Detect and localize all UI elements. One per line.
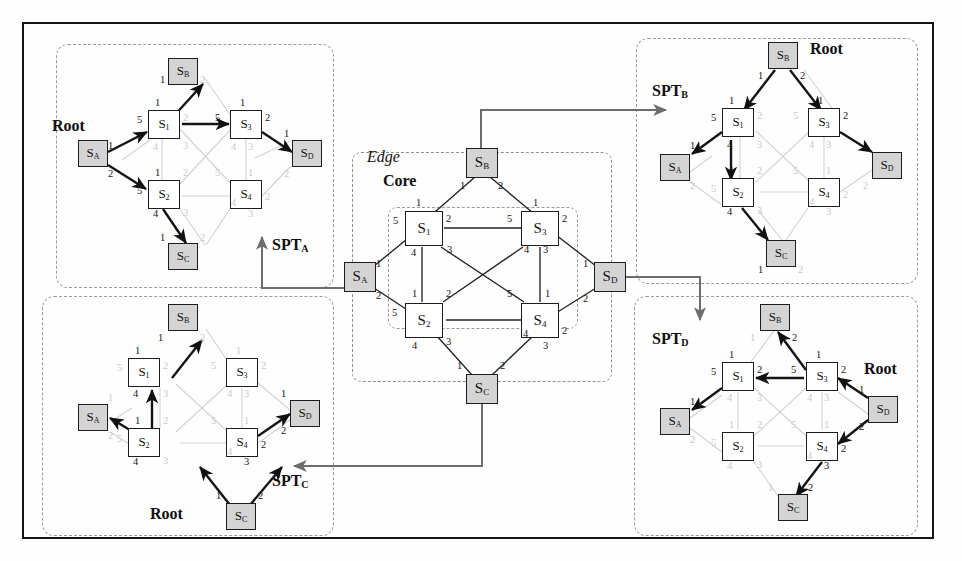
core-node-sd[interactable]: SD [594,262,626,292]
sptb-node-s2[interactable]: S2 [722,178,754,207]
sptb-node-sb[interactable]: SB [768,42,798,69]
sptc-node-s3[interactable]: S3 [226,358,258,387]
spta-node-sc[interactable]: SC [168,243,198,270]
port-s3-1: 1 [533,197,538,208]
sptd-port-s3-3: 3 [824,392,829,403]
sptc-port-sd-1: 1 [281,388,286,399]
sptc-port-s3-2: 2 [261,360,266,371]
sptc-port-s2-5: 5 [117,433,122,444]
sptb-port-s3-5: 5 [793,110,798,121]
sptc-port-s4-2: 2 [261,439,266,450]
sptb-port-s1-4: 4 [727,139,732,150]
sptc-port-sc-1: 1 [216,490,221,501]
port-sc-2: 2 [500,360,505,371]
port-s4-5: 5 [507,288,512,299]
sptc-node-s2[interactable]: S2 [128,428,160,457]
spta-port-s2-2: 2 [183,167,188,178]
spta-node-s2[interactable]: S2 [148,180,180,209]
spta-node-sb[interactable]: SB [168,58,198,85]
sptb-port-sb-1: 1 [758,70,763,81]
core-node-sb[interactable]: SB [466,148,498,178]
core-node-s2[interactable]: S2 [405,303,443,338]
sptb-node-s1[interactable]: S1 [722,108,754,137]
sptc-port-s2-2: 2 [163,415,168,426]
sptd-root-label: Root [864,360,897,378]
sptd-port-sd-1: 1 [859,384,864,395]
sptd-node-sd[interactable]: SD [868,396,898,423]
port-sb-1: 1 [460,180,465,191]
port-s1-3: 3 [447,244,452,255]
sptd-port-s1-1: 1 [729,349,734,360]
sptd-node-s1[interactable]: S1 [722,362,754,391]
sptd-port-s2-1: 1 [729,419,734,430]
spta-root-label: Root [52,117,85,135]
sptc-port-s3-4: 4 [227,388,232,399]
spta-port-s1-1: 1 [155,97,160,108]
spta-port-sb-2: 2 [200,74,205,85]
sptc-port-sc-2: 2 [258,490,263,501]
spta-port-s3-2: 2 [265,112,270,123]
sptb-node-sd[interactable]: SD [872,152,902,179]
sptd-port-s2-2: 2 [757,419,762,430]
sptc-port-s1-5: 5 [117,362,122,373]
core-node-s3[interactable]: S3 [521,211,559,246]
spta-port-s2-1: 1 [155,167,160,178]
port-s2-1: 1 [412,288,417,299]
spta-node-sd[interactable]: SD [292,140,322,167]
spta-port-s3-3: 3 [248,141,253,152]
sptc-node-s1[interactable]: S1 [128,358,160,387]
spta-port-s3-4: 4 [231,141,236,152]
core-node-sc[interactable]: SC [466,374,498,404]
port-s2-4: 4 [412,340,417,351]
spta-port-sa-1: 1 [108,140,113,151]
sptb-port-s4-4: 4 [809,196,814,207]
sptd-node-sb[interactable]: SB [760,304,790,331]
sptb-port-sc-1: 1 [758,264,763,275]
spta-port-s3-5: 5 [215,112,220,123]
sptc-node-sc[interactable]: SC [226,503,256,530]
spta-port-s4-1: 1 [248,167,253,178]
spta-node-s3[interactable]: S3 [230,110,262,139]
port-s2-5: 5 [392,307,397,318]
sptd-node-sa[interactable]: SA [660,408,690,435]
sptb-node-s3[interactable]: S3 [808,108,840,137]
spta-node-s1[interactable]: S1 [148,110,180,139]
sptd-port-sa-2: 2 [690,434,695,445]
sptd-port-s3-4: 4 [807,392,812,403]
sptc-port-s1-4: 4 [133,388,138,399]
sptc-port-s1-3: 3 [163,388,168,399]
sptb-port-sa-1: 1 [690,140,695,151]
sptc-node-sd[interactable]: SD [290,400,320,427]
sptd-port-s2-3: 3 [757,459,762,470]
sptc-port-sb-1: 1 [158,332,163,343]
core-node-sa[interactable]: SA [344,262,376,292]
sptb-node-sa[interactable]: SA [660,154,690,181]
sptb-port-s4-1: 1 [826,165,831,176]
port-sa-1: 1 [376,258,381,269]
core-region-label: Core [383,172,416,190]
sptc-node-sb[interactable]: SB [168,304,198,331]
sptb-port-sb-2: 2 [800,70,805,81]
sptd-node-s3[interactable]: S3 [806,362,838,391]
spta-port-s2-5: 5 [137,185,142,196]
sptc-node-sa[interactable]: SA [78,404,108,431]
sptd-port-sa-1: 1 [690,396,695,407]
sptc-port-s1-1: 1 [135,345,140,356]
figure-canvas: SB SA SD SC S1 S3 S2 S4 1 2 1 2 1 2 1 2 … [0,0,962,561]
sptc-port-s1-2: 2 [163,360,168,371]
sptc-port-s3-1: 1 [236,345,241,356]
sptb-port-sa-2: 2 [690,180,695,191]
sptb-port-s2-1: 1 [729,165,734,176]
sptd-node-s2[interactable]: S2 [722,432,754,461]
spta-port-s4-2: 2 [265,191,270,202]
core-node-s3-label: S3 [534,221,547,237]
sptd-port-s4-4: 4 [807,450,812,461]
spta-port-s3-1: 1 [240,97,245,108]
sptb-node-sc[interactable]: SC [766,240,796,267]
spta-node-sa[interactable]: SA [78,140,108,167]
sptc-port-s4-1: 1 [244,415,249,426]
spta-port-s1-3: 3 [183,140,188,151]
core-node-s1[interactable]: S1 [405,211,443,246]
sptd-node-sc[interactable]: SC [778,494,808,521]
sptc-port-s2-4: 4 [133,456,138,467]
